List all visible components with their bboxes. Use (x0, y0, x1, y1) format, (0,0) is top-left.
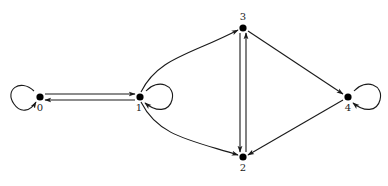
node-3 (239, 24, 246, 31)
node-1 (136, 93, 143, 100)
node-4 (344, 93, 351, 100)
node-2 (239, 153, 246, 160)
edge-1-to-1 (145, 84, 173, 109)
node-0 (36, 93, 43, 100)
directed-graph: 0 1 2 3 4 (0, 0, 388, 186)
node-label-4: 4 (345, 102, 351, 113)
edge-1-to-3 (141, 30, 238, 92)
edge-1-to-2 (141, 102, 238, 155)
node-label-2: 2 (240, 162, 246, 173)
node-label-3: 3 (240, 11, 246, 22)
edge-4-to-2 (248, 100, 343, 155)
edge-4-to-4 (353, 84, 381, 109)
node-label-1: 1 (136, 102, 142, 113)
edge-3-to-4 (248, 31, 343, 94)
edge-0-to-0 (11, 85, 36, 110)
node-label-0: 0 (37, 102, 43, 113)
